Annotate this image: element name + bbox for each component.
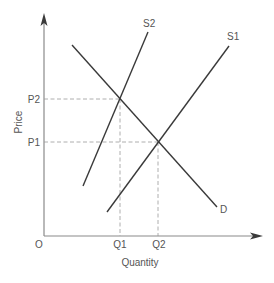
guide-lines xyxy=(44,99,158,236)
curve-label-d: D xyxy=(220,204,227,215)
curves xyxy=(72,32,229,212)
supply-curve-s2 xyxy=(83,32,148,186)
price-label-p2: P2 xyxy=(28,94,41,105)
x-axis-title: Quantity xyxy=(121,257,158,268)
quantity-label-q1: Q1 xyxy=(113,239,127,250)
supply-demand-diagram: S2 S1 D P2 P1 Q1 Q2 O Quantity Price xyxy=(0,0,274,283)
curve-label-s2: S2 xyxy=(143,18,156,29)
demand-curve-d xyxy=(72,45,217,207)
origin-label: O xyxy=(35,239,43,250)
supply-curve-s1 xyxy=(107,46,229,212)
labels: S2 S1 D P2 P1 Q1 Q2 O Quantity Price xyxy=(13,18,240,268)
curve-label-s1: S1 xyxy=(227,31,240,42)
quantity-label-q2: Q2 xyxy=(152,239,166,250)
y-axis-title: Price xyxy=(13,110,24,133)
price-label-p1: P1 xyxy=(28,137,41,148)
